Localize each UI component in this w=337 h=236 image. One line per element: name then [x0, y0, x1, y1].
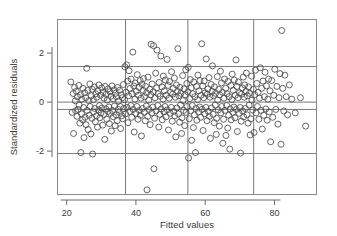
- y-axis-tick-label: 2: [39, 48, 44, 58]
- x-axis-tick-label: 40: [131, 208, 141, 218]
- scatter-plot-svg: 20406080 20-2 Fitted values Standardized…: [0, 0, 337, 236]
- y-axis-tick-label: -2: [36, 146, 44, 156]
- y-axis-label: Standardized residuals: [8, 58, 19, 155]
- residuals-vs-fitted-plot: 20406080 20-2 Fitted values Standardized…: [0, 0, 337, 236]
- x-axis-label: Fitted values: [160, 219, 214, 230]
- x-axis-tick-label: 80: [269, 208, 279, 218]
- x-axis-tick-label: 20: [62, 208, 72, 218]
- y-axis-tick-label: 0: [39, 97, 44, 107]
- x-axis-tick-label: 60: [200, 208, 210, 218]
